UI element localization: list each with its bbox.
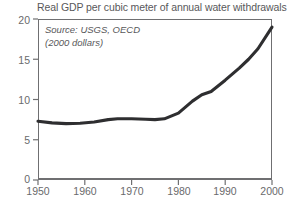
x-axis-ticks — [38, 180, 272, 185]
chart-svg — [0, 0, 295, 209]
chart-figure: Real GDP per cubic meter of annual water… — [0, 0, 295, 209]
data-line-gdp-per-cubic-meter — [38, 27, 272, 124]
y-axis-ticks — [33, 19, 38, 180]
